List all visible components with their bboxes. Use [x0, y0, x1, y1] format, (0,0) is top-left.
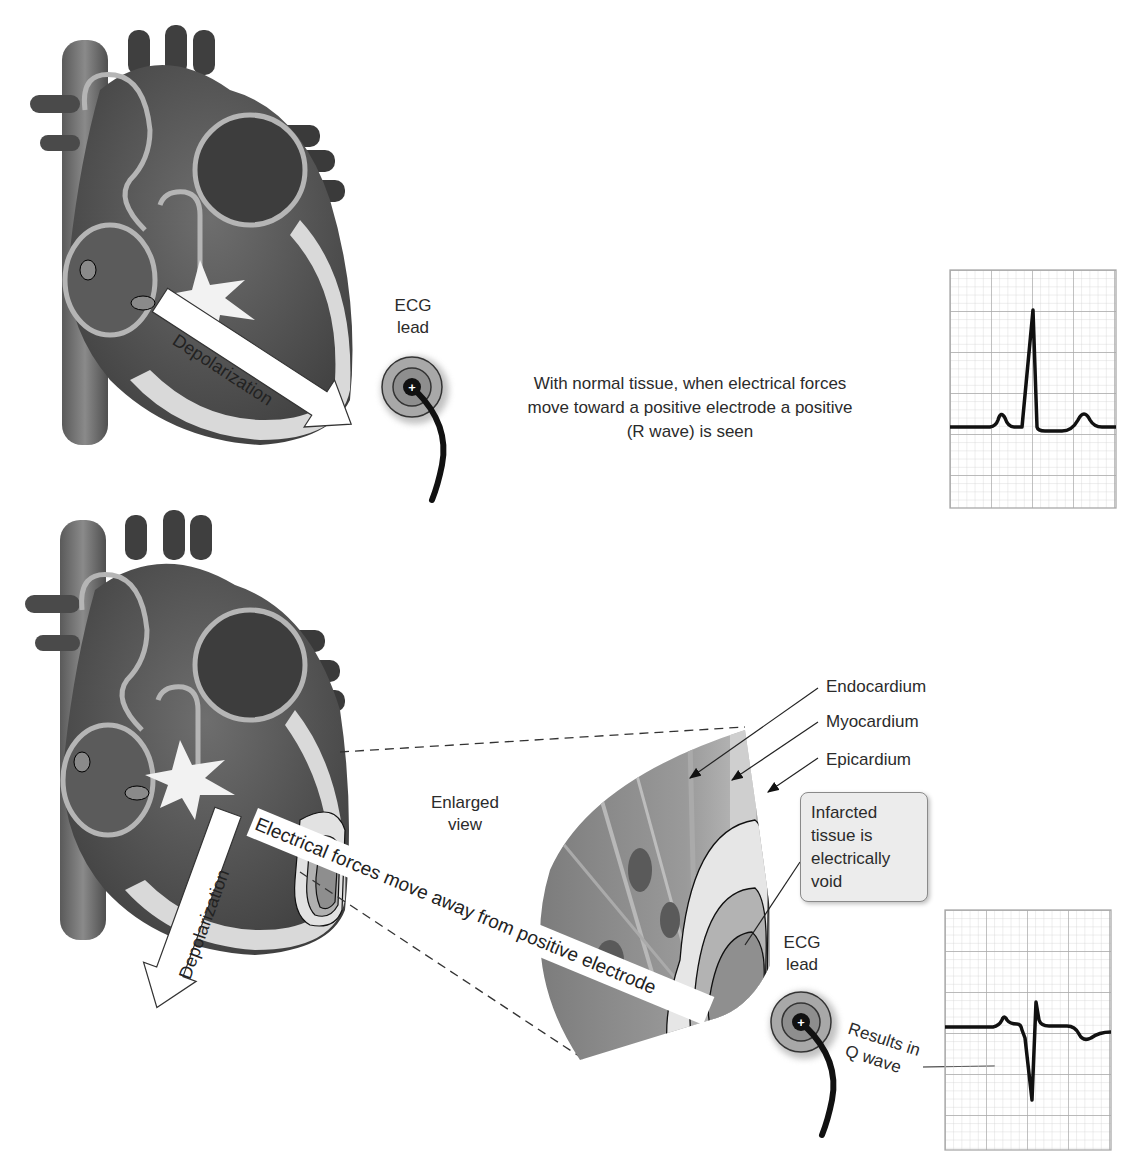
ecg-lead-label-bottom: ECG lead — [772, 932, 832, 976]
ecg-strip-q-wave — [945, 910, 1113, 1155]
callout-line: Infarcted — [811, 801, 917, 824]
infarcted-tissue-callout: Infarcted tissue is electrically void — [800, 792, 928, 902]
ecg-electrode-icon: + — [762, 990, 852, 1140]
callout-line: electrically — [811, 847, 917, 870]
ecg-lead-label-line1: ECG — [772, 932, 832, 954]
callout-line: void — [811, 870, 917, 893]
ecg-lead-label-line2: lead — [772, 954, 832, 976]
callout-line: tissue is — [811, 824, 917, 847]
